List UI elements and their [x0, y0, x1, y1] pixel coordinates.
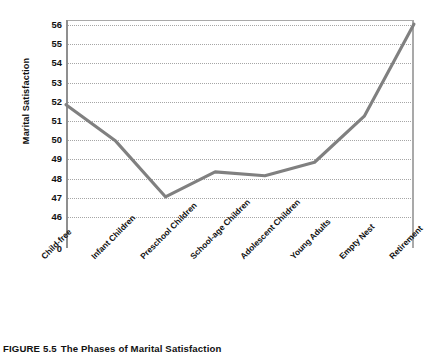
figure-caption-text: The Phases of Marital Satisfaction — [61, 343, 222, 354]
y-axis-tick-label: 51 — [34, 115, 62, 126]
y-axis-tick-label: 54 — [34, 57, 62, 68]
y-axis-tick-label: 48 — [34, 172, 62, 183]
y-axis-tick-label: 55 — [34, 38, 62, 49]
y-axis-tick-label: 46 — [34, 211, 62, 222]
y-axis-title: Marital Satisfaction — [21, 31, 31, 171]
y-axis-tick-label: 47 — [34, 191, 62, 202]
y-axis-tick-label: 50 — [34, 134, 62, 145]
x-axis-tick-label-group: Child-freeInfant ChildrenPreschool Child… — [0, 248, 437, 338]
figure-caption: FIGURE 5.5The Phases of Marital Satisfac… — [3, 343, 222, 354]
figure-container: Marital Satisfaction 5655545352515049484… — [0, 0, 437, 354]
figure-caption-number: FIGURE 5.5 — [3, 343, 57, 354]
marital-satisfaction-line — [66, 24, 414, 197]
y-axis-tick-label: 49 — [34, 153, 62, 164]
y-axis-tick-label: 53 — [34, 76, 62, 87]
y-axis-tick-label: 56 — [34, 19, 62, 30]
y-axis-tick-label: 52 — [34, 95, 62, 106]
